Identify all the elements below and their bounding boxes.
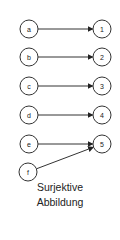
codomain-node-5: 5	[93, 135, 111, 153]
caption-line-1: Surjektive	[0, 180, 120, 195]
node-label: 1	[100, 26, 104, 33]
caption-line-2: Abbildung	[0, 195, 120, 210]
node-label: c	[27, 83, 31, 90]
node-label: e	[27, 141, 31, 148]
domain-node-b: b	[20, 48, 38, 66]
node-label: 2	[100, 54, 104, 61]
node-label: b	[27, 54, 31, 61]
codomain-node-3: 3	[93, 77, 111, 95]
node-label: 5	[100, 141, 104, 148]
codomain-node-4: 4	[93, 106, 111, 124]
domain-node-d: d	[20, 106, 38, 124]
domain-node-a: a	[20, 20, 38, 38]
node-group: abcdef12345	[19, 20, 111, 181]
domain-node-c: c	[20, 77, 38, 95]
edge-group	[36, 29, 93, 169]
codomain-node-1: 1	[93, 20, 111, 38]
codomain-node-2: 2	[93, 48, 111, 66]
domain-node-e: e	[20, 135, 38, 153]
node-label: 4	[100, 112, 104, 119]
node-label: a	[27, 26, 31, 33]
node-label: f	[27, 169, 29, 176]
edge-f-to-5	[36, 147, 93, 168]
node-label: d	[27, 112, 31, 119]
domain-node-f: f	[19, 163, 37, 181]
node-label: 3	[100, 83, 104, 90]
